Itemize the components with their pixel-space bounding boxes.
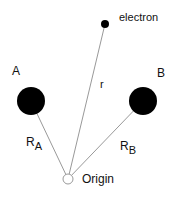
diagram-canvas: electron A B r RA RB Origin [0,0,178,197]
label-origin: Origin [82,172,114,186]
nucleus-a [17,87,45,115]
label-vector-rb-main: R [120,139,129,153]
vector-r-line [68,24,105,179]
origin-marker [63,174,73,184]
label-vector-ra-main: R [26,135,35,149]
label-vector-rb-sub: B [129,144,136,156]
vector-rb-line [68,101,143,179]
label-nucleus-b: B [157,66,165,80]
label-vector-ra-sub: A [35,140,43,152]
label-electron: electron [119,11,158,23]
label-vector-r: r [100,78,104,90]
label-nucleus-a: A [12,64,20,78]
electron-dot [101,20,109,28]
nucleus-b [129,87,157,115]
label-vector-ra: RA [26,135,43,152]
label-vector-rb: RB [120,139,136,156]
